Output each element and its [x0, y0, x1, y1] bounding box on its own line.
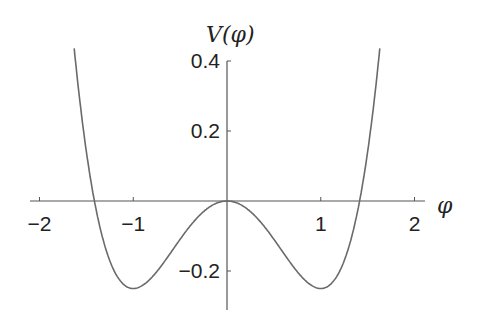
x-axis-label: φ [437, 193, 453, 218]
x-tick-label: −2 [28, 212, 52, 235]
x-tick-label: 2 [409, 212, 421, 235]
axes [30, 61, 425, 310]
x-tick-label: 1 [315, 212, 327, 235]
x-ticks: −2−112 [28, 197, 421, 235]
y-axis-label: V(φ) [206, 22, 254, 47]
y-tick-label: 0.4 [191, 49, 221, 72]
x-tick-label: −1 [121, 212, 145, 235]
y-tick-label: 0.2 [191, 119, 220, 142]
y-ticks: −0.20.20.4 [179, 49, 231, 282]
chart: −2−112 −0.20.20.4 φ V(φ) [0, 0, 477, 323]
y-tick-label: −0.2 [179, 259, 220, 282]
